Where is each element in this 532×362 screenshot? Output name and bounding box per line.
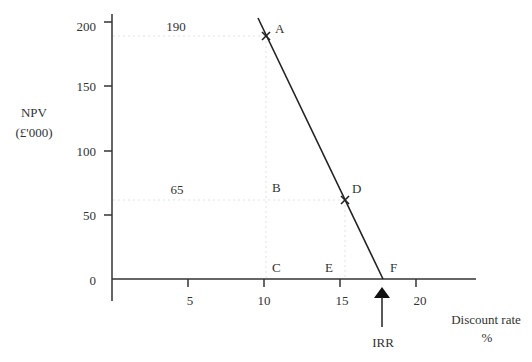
point-label-b: B — [272, 180, 281, 195]
y-tick-200: 200 — [77, 19, 97, 34]
point-label-c: C — [272, 260, 281, 275]
guide-lines — [113, 36, 345, 279]
y-axis-title-line2: (£'000) — [15, 125, 52, 140]
irr-label: IRR — [372, 335, 394, 350]
y-axis — [104, 14, 112, 301]
x-axis-title-line2: % — [482, 330, 493, 345]
npv-line — [258, 18, 383, 279]
y-tick-100: 100 — [77, 144, 97, 159]
value-65: 65 — [171, 182, 184, 197]
x-tick-5: 5 — [187, 293, 194, 308]
y-tick-50: 50 — [83, 208, 96, 223]
value-190: 190 — [166, 19, 186, 34]
point-label-a: A — [275, 21, 285, 36]
x-axis-title-line1: Discount rate — [451, 312, 521, 327]
x-tick-20: 20 — [414, 293, 427, 308]
irr-arrow-icon — [374, 287, 390, 327]
y-axis-title-line1: NPV — [21, 105, 48, 120]
x-tick-10: 10 — [258, 293, 271, 308]
y-tick-150: 150 — [77, 79, 97, 94]
point-label-e: E — [325, 260, 333, 275]
y-tick-0: 0 — [90, 273, 97, 288]
x-axis — [112, 279, 476, 287]
marker-d-icon — [341, 196, 349, 204]
point-label-d: D — [352, 181, 361, 196]
point-label-f: F — [390, 260, 397, 275]
npv-irr-chart: 200 150 100 50 0 5 10 15 20 NPV (£'000) … — [0, 0, 532, 362]
x-tick-15: 15 — [336, 293, 349, 308]
